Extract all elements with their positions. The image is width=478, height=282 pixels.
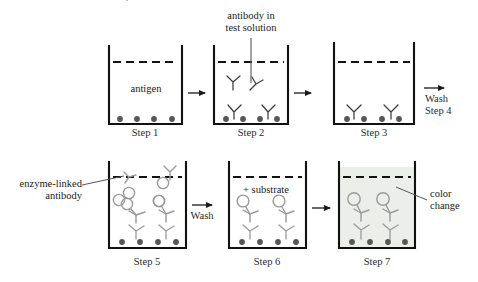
annotation-color-line1: color <box>430 188 460 200</box>
arrow-label-wash: Wash <box>425 93 452 105</box>
annotation-antibody-line1: antibody in <box>225 10 276 22</box>
arrow-label-wash-step4: Wash Step 4 <box>425 93 452 118</box>
arrow-label-wash-5to6: Wash <box>190 210 213 222</box>
antibody-bound-6-left <box>243 225 258 239</box>
diagram-graphics <box>0 0 478 282</box>
annotation-substrate: + substrate <box>243 184 289 196</box>
step-label-6: Step 6 <box>254 256 281 268</box>
antibodies-bound-3 <box>347 105 398 119</box>
arrow-label-step4: Step 4 <box>425 105 452 117</box>
antibody-bound-6-right <box>279 225 294 239</box>
antibody-bound-5-left <box>129 225 144 239</box>
step-label-1: Step 1 <box>132 127 159 139</box>
antigen-dots-1 <box>117 116 175 122</box>
annotation-antigen: antigen <box>131 83 162 95</box>
step-label-2: Step 2 <box>238 127 265 139</box>
elisa-diagram: antibody in test solution antigen Wash S… <box>0 0 478 282</box>
well-step-7 <box>339 162 427 248</box>
enzyme-antibody-stack-6-right <box>273 195 294 222</box>
antigen-dots-5 <box>119 239 179 245</box>
annotation-enzyme-linked-line2: antibody <box>20 190 82 202</box>
antigen-dots-6 <box>239 239 299 245</box>
well-step-3 <box>334 43 414 124</box>
antibody-bound-5-right <box>159 225 174 239</box>
annotation-color-change: color change <box>430 188 460 213</box>
antigen-dots-2 <box>223 116 280 122</box>
well-step-6 <box>229 162 306 248</box>
step-label-7: Step 7 <box>364 256 391 268</box>
enzyme-antibody-stack-6-left <box>237 195 258 222</box>
step-label-5: Step 5 <box>134 256 161 268</box>
annotation-antibody-line2: test solution <box>225 22 276 34</box>
annotation-enzyme-linked-line1: enzyme-linked <box>20 178 82 190</box>
annotation-enzyme-linked-antibody: enzyme-linked antibody <box>20 178 82 203</box>
step-label-3: Step 3 <box>361 127 388 139</box>
annotation-antibody-in-test-solution: antibody in test solution <box>225 10 276 35</box>
well-step-5 <box>82 162 186 248</box>
annotation-color-line2: change <box>430 200 460 212</box>
enzyme-antibody-stack-5-right <box>153 195 174 222</box>
antigen-dots-3 <box>344 116 402 122</box>
